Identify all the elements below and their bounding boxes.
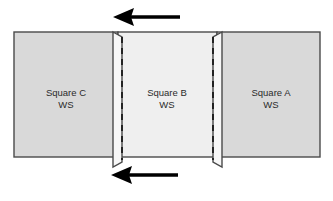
panel-square-a-label-line2: WS [263, 99, 278, 110]
panel-square-c-label-line1: Square C [46, 87, 86, 98]
panel-square-b-label-line1: Square B [147, 87, 187, 98]
seam-diagram: Square C WS Square B WS Square A WS [0, 0, 333, 201]
seam-flap-left [113, 32, 122, 167]
panel-square-b-label-line2: WS [159, 99, 174, 110]
panel-square-c-label-line2: WS [58, 99, 73, 110]
seam-diagram-container: Square C WS Square B WS Square A WS [0, 0, 333, 201]
panel-square-a-label-line1: Square A [251, 87, 291, 98]
seam-flap-right [213, 32, 222, 167]
